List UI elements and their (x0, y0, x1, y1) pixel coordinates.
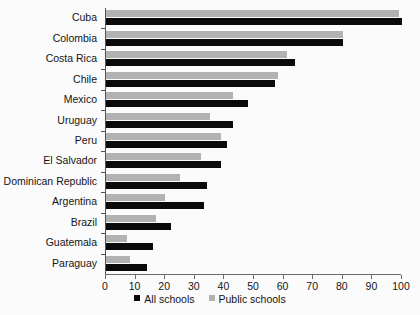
bar (106, 202, 204, 209)
x-tick (312, 275, 313, 279)
bar (106, 72, 278, 79)
bar (106, 161, 221, 168)
x-tick-label: 0 (90, 280, 120, 292)
bar (106, 174, 180, 181)
y-tick (101, 69, 105, 70)
chart-legend: All schoolsPublic schools (0, 292, 420, 305)
x-tick (164, 275, 165, 279)
x-tick (194, 275, 195, 279)
y-tick (101, 131, 105, 132)
bar (106, 113, 210, 120)
bar (106, 59, 295, 66)
bar (106, 235, 127, 242)
x-tick (253, 275, 254, 279)
category-label: Mexico (0, 94, 97, 105)
x-tick (283, 275, 284, 279)
category-label: Cuba (0, 12, 97, 23)
x-tick (401, 275, 402, 279)
x-tick-label: 10 (120, 280, 150, 292)
legend-item[interactable]: Public schools (209, 292, 286, 305)
bar (106, 153, 201, 160)
legend-label: All schools (144, 293, 194, 305)
y-tick (101, 254, 105, 255)
category-label: Chile (0, 74, 97, 85)
category-label: Guatemala (0, 237, 97, 248)
bar (106, 92, 233, 99)
bar (106, 133, 221, 140)
x-tick (371, 275, 372, 279)
bar (106, 194, 165, 201)
category-axis-labels: CubaColombiaCosta RicaChileMexicoUruguay… (0, 8, 100, 274)
bar (106, 256, 130, 263)
x-tick-label: 40 (208, 280, 238, 292)
y-tick (101, 172, 105, 173)
bar (106, 31, 343, 38)
category-label: Uruguay (0, 115, 97, 126)
x-tick-label: 30 (179, 280, 209, 292)
bar (106, 18, 402, 25)
plot-area: 0102030405060708090100 (105, 8, 401, 274)
y-tick (101, 192, 105, 193)
bar (106, 100, 248, 107)
y-tick (101, 49, 105, 50)
legend-item[interactable]: All schools (134, 292, 194, 305)
bar (106, 223, 171, 230)
x-tick-label: 60 (268, 280, 298, 292)
bar (106, 215, 156, 222)
y-tick (101, 151, 105, 152)
legend-swatch-icon (209, 295, 215, 301)
x-tick (223, 275, 224, 279)
bar (106, 121, 233, 128)
bar (106, 39, 343, 46)
x-tick (342, 275, 343, 279)
bar (106, 10, 399, 17)
category-label: Colombia (0, 33, 97, 44)
category-label: Paraguay (0, 258, 97, 269)
y-tick (101, 90, 105, 91)
bar (106, 51, 287, 58)
x-tick-label: 20 (149, 280, 179, 292)
x-tick-label: 100 (386, 280, 416, 292)
category-label: Argentina (0, 196, 97, 207)
x-tick (105, 275, 106, 279)
bar (106, 80, 275, 87)
category-label: El Salvador (0, 155, 97, 166)
category-label: Costa Rica (0, 53, 97, 64)
y-tick (101, 213, 105, 214)
y-tick (101, 110, 105, 111)
category-label: Brazil (0, 217, 97, 228)
x-tick (135, 275, 136, 279)
x-tick-label: 80 (327, 280, 357, 292)
bar (106, 243, 153, 250)
category-label: Dominican Republic (0, 176, 97, 187)
category-label: Peru (0, 135, 97, 146)
y-tick (101, 233, 105, 234)
bar (106, 182, 207, 189)
y-tick (101, 28, 105, 29)
legend-swatch-icon (134, 295, 140, 301)
bar (106, 141, 227, 148)
x-tick-label: 50 (238, 280, 268, 292)
legend-label: Public schools (219, 293, 286, 305)
x-tick-label: 70 (297, 280, 327, 292)
x-tick-label: 90 (356, 280, 386, 292)
bar (106, 264, 147, 271)
horizontal-bar-chart: CubaColombiaCosta RicaChileMexicoUruguay… (0, 0, 420, 315)
